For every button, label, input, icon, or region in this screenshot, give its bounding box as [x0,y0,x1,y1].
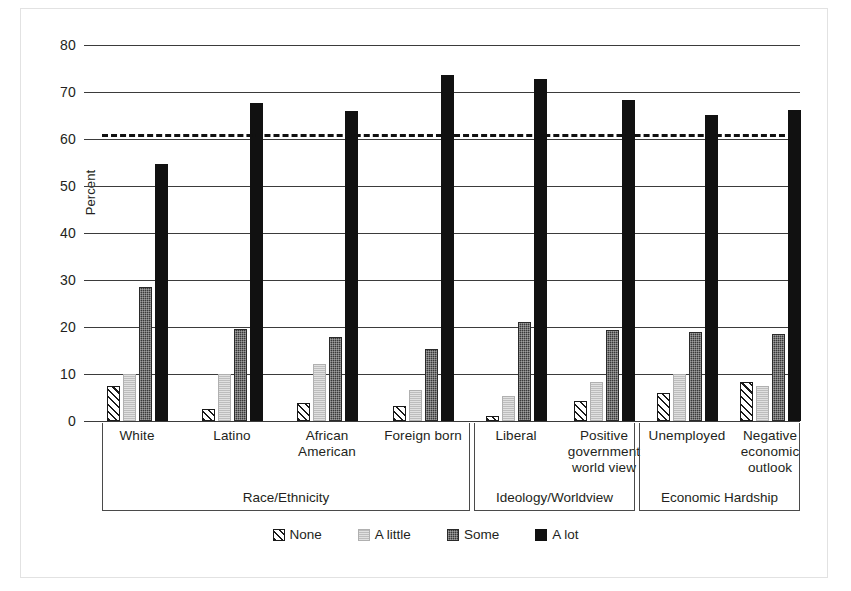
bar-a-lot[interactable] [441,75,454,421]
bar-a-lot[interactable] [250,103,263,421]
bar-a-little[interactable] [673,374,686,421]
bar-some[interactable] [329,337,342,421]
bar-some[interactable] [518,322,531,421]
bar-group [486,45,547,421]
bar-none[interactable] [486,416,499,421]
y-tick-40 [84,233,102,234]
y-tick-60 [84,139,102,140]
legend-label: Some [464,527,499,542]
bar-some[interactable] [139,287,152,421]
y-tick-label-60: 60 [36,132,76,146]
legend-item-none[interactable]: None [273,527,322,542]
y-axis-title: Percent [83,133,98,253]
legend-label: A lot [552,527,578,542]
bar-a-lot[interactable] [345,111,358,421]
legend: NoneA littleSomeA lot [0,527,851,542]
y-tick-0 [84,421,102,422]
y-tick-50 [84,186,102,187]
y-tick-label-70: 70 [36,85,76,99]
reference-line [102,134,794,137]
bar-group [297,45,358,421]
bar-none[interactable] [202,409,215,421]
bar-a-lot[interactable] [705,115,718,421]
group-label: Economic Hardship [639,490,800,506]
group-label: Race/Ethnicity [102,490,470,506]
bar-group [574,45,635,421]
y-tick-80 [84,45,102,46]
plot-area [102,45,800,421]
bar-some[interactable] [234,329,247,421]
bar-a-little[interactable] [590,382,603,421]
y-tick-label-40: 40 [36,226,76,240]
dark-gray-swatch [447,529,459,541]
bar-a-little[interactable] [409,390,422,421]
y-tick-10 [84,374,102,375]
legend-item-a-little[interactable]: A little [358,527,411,542]
legend-item-a-lot[interactable]: A lot [535,527,578,542]
legend-label: A little [375,527,411,542]
bar-group [107,45,168,421]
bar-group [393,45,454,421]
y-tick-20 [84,327,102,328]
y-tick-70 [84,92,102,93]
light-gray-swatch [358,529,370,541]
bar-group [202,45,263,421]
bar-a-lot[interactable] [534,79,547,421]
y-tick-label-0: 0 [36,414,76,428]
y-tick-label-30: 30 [36,273,76,287]
grouped-bar-chart: Percent 01020304050607080 WhiteLatinoAfr… [0,0,851,591]
bar-a-little[interactable] [502,396,515,421]
y-tick-label-80: 80 [36,38,76,52]
bar-none[interactable] [393,406,406,422]
y-tick-30 [84,280,102,281]
bar-some[interactable] [425,349,438,421]
bar-a-lot[interactable] [788,110,801,421]
bar-a-lot[interactable] [155,164,168,421]
bar-a-little[interactable] [756,386,769,421]
legend-label: None [290,527,322,542]
bar-none[interactable] [107,386,120,421]
bar-a-little[interactable] [313,364,326,421]
bar-none[interactable] [657,393,670,421]
y-tick-label-10: 10 [36,367,76,381]
y-tick-label-20: 20 [36,320,76,334]
bar-a-little[interactable] [218,374,231,421]
bar-group [740,45,801,421]
bar-none[interactable] [297,403,310,421]
bar-a-lot[interactable] [622,100,635,421]
black-swatch [535,529,547,541]
hatched-swatch [273,529,285,541]
y-tick-label-50: 50 [36,179,76,193]
bar-some[interactable] [689,332,702,421]
bar-group [657,45,718,421]
bar-none[interactable] [740,382,753,421]
bar-some[interactable] [606,330,619,421]
legend-item-some[interactable]: Some [447,527,499,542]
bar-a-little[interactable] [123,374,136,421]
x-axis-line [102,421,800,422]
bar-some[interactable] [772,334,785,421]
bar-none[interactable] [574,401,587,421]
group-label: Ideology/Worldview [474,490,635,506]
